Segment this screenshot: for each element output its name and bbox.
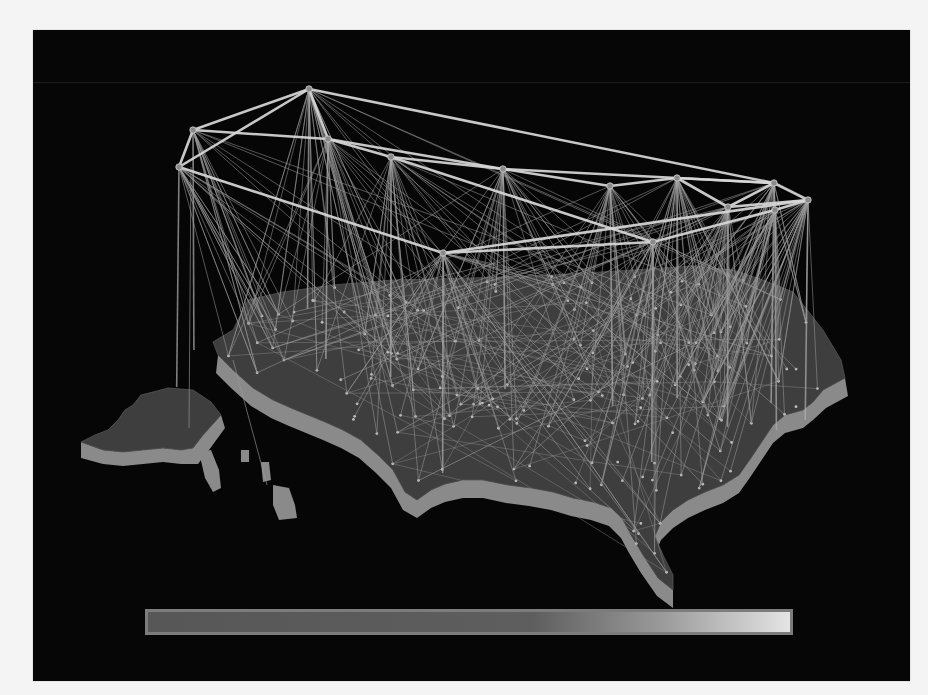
backbone-node xyxy=(325,136,331,142)
ground-site xyxy=(795,405,798,408)
backbone-link xyxy=(309,89,774,183)
ground-site xyxy=(386,314,389,317)
backbone-node xyxy=(440,250,446,256)
hawaii-island xyxy=(241,450,249,462)
network-map-scene xyxy=(33,30,910,681)
ground-site xyxy=(639,522,642,525)
ground-site xyxy=(574,482,577,485)
backbone-node xyxy=(607,183,613,189)
hawaii-island xyxy=(273,485,297,520)
backbone-node xyxy=(190,127,196,133)
backbone-node xyxy=(388,154,394,160)
backbone-node xyxy=(805,197,811,203)
ground-site xyxy=(488,404,491,407)
ground-site xyxy=(586,444,589,447)
backbone-node xyxy=(176,164,182,170)
backbone-node xyxy=(725,204,731,210)
color-scale-legend xyxy=(145,609,793,635)
ground-site xyxy=(639,406,642,409)
backbone-node xyxy=(771,180,777,186)
color-scale-gradient xyxy=(148,612,790,632)
backbone-node xyxy=(772,207,778,213)
backbone-node xyxy=(500,166,506,172)
hawaii-island xyxy=(261,462,271,482)
backbone-link xyxy=(610,178,677,186)
backbone-node xyxy=(650,239,656,245)
backbone-link xyxy=(774,183,808,200)
alaska-panhandle xyxy=(199,450,221,492)
ground-site xyxy=(352,418,355,421)
backbone-node xyxy=(306,86,312,92)
network-figure xyxy=(33,30,910,681)
backbone-node xyxy=(674,175,680,181)
ground-site xyxy=(616,461,619,464)
